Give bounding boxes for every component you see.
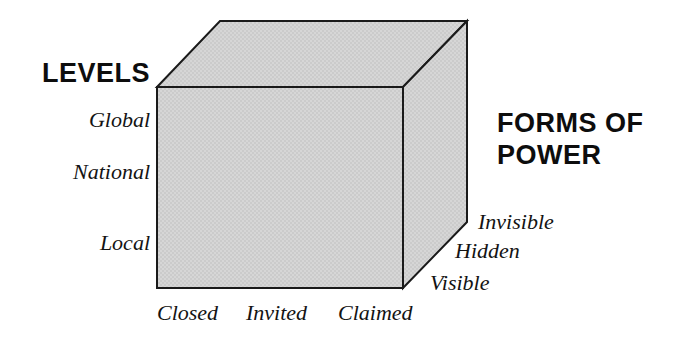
- forms-tick-hidden: Hidden: [455, 240, 520, 262]
- spaces-tick-closed: Closed: [157, 300, 218, 326]
- spaces-tick-invited: Invited: [246, 300, 307, 326]
- cube-front-face: [157, 87, 403, 288]
- levels-tick-local: Local: [0, 232, 152, 254]
- forms-of-power-axis-title: FORMS OF POWER: [497, 108, 687, 172]
- forms-tick-invisible: Invisible: [478, 211, 554, 233]
- forms-of-power-title-line2: POWER: [497, 140, 687, 172]
- forms-of-power-title-line1: FORMS OF: [497, 108, 687, 140]
- levels-tick-national: National: [0, 161, 152, 183]
- spaces-tick-claimed: Claimed: [338, 300, 413, 326]
- levels-axis-title: LEVELS: [0, 60, 157, 87]
- forms-tick-visible: Visible: [430, 272, 489, 294]
- levels-tick-global: Global: [0, 109, 152, 131]
